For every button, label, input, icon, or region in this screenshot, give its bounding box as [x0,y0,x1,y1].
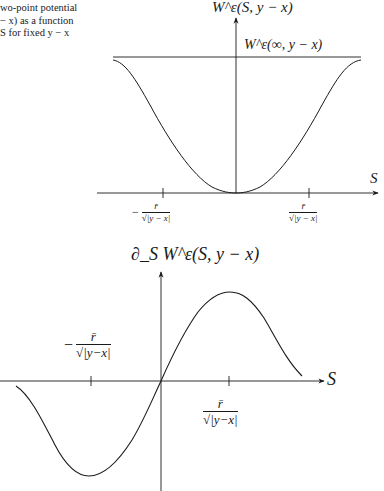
bottom-derivative-curve [16,292,302,476]
bottom-tick-label-right: r̄ √|y−x| [200,397,238,427]
top-asymptote-label: W^ε(∞, y − x) [244,37,322,53]
bottom-x-axis-label: S [327,369,336,390]
top-x-axis-label: S [370,170,378,187]
top-y-axis-label: W^ε(S, y − x) [212,0,293,16]
top-tick-label-right: r̄ √|y − x| [286,202,317,224]
top-tick-label-left: − r̄ √|y − x| [132,202,170,224]
bottom-tick-label-left: − r̄ √|y−x| [64,330,111,360]
top-potential-curve [113,60,361,193]
bottom-y-axis-label: ∂_S W^ε(S, y − x) [131,244,259,265]
